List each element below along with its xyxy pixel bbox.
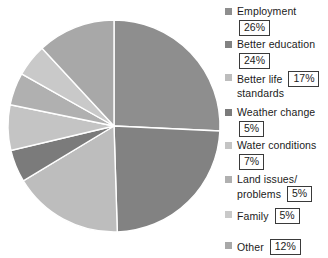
legend-item-other-texts: Other 12% xyxy=(237,239,301,255)
legend-item-better-education-texts: Better education 24% xyxy=(237,38,315,69)
legend-swatch-land-issues xyxy=(225,176,232,183)
pie-chart-svg xyxy=(0,0,230,258)
legend-label-better-life-standards: Better life xyxy=(237,73,282,86)
legend-item-family[interactable]: Family 5% xyxy=(225,208,300,224)
legend-item-better-life-standards[interactable]: Better life 17% standards xyxy=(225,71,319,100)
legend-label-weather-change: Weather change xyxy=(237,106,315,119)
legend-label-line-2: problems 5% xyxy=(237,186,312,202)
legend-label-better-life-standards-2: standards xyxy=(237,87,284,100)
legend-label-line: Better education xyxy=(237,38,315,51)
legend-label-land-issues: Land issues/ xyxy=(237,173,297,186)
legend-label-line: Other 12% xyxy=(237,239,301,255)
legend-value-water-conditions: 7% xyxy=(239,154,264,170)
legend-item-land-issues[interactable]: Land issues/ problems 5% xyxy=(225,173,312,202)
legend-swatch-family xyxy=(225,211,232,218)
legend-swatch-employment xyxy=(225,8,232,15)
legend-swatch-better-education xyxy=(225,41,232,48)
legend-swatch-weather-change xyxy=(225,109,232,116)
legend-label-family: Family xyxy=(237,210,269,223)
legend-label-line-2: standards xyxy=(237,87,319,100)
legend-label-better-education: Better education xyxy=(237,38,315,51)
pie-slice[interactable] xyxy=(114,20,220,131)
legend-label-line: Better life 17% xyxy=(237,71,319,87)
legend-label-line: Weather change xyxy=(237,106,315,119)
legend-swatch-water-conditions xyxy=(225,142,232,149)
legend-label-other: Other xyxy=(237,241,264,254)
legend-value-other: 12% xyxy=(270,239,301,255)
legend-item-land-issues-texts: Land issues/ problems 5% xyxy=(237,173,312,202)
legend-item-family-texts: Family 5% xyxy=(237,208,300,224)
legend-value-employment: 26% xyxy=(239,20,270,36)
legend-value-line: 24% xyxy=(239,53,315,69)
legend-label-line: Water conditions xyxy=(237,139,316,152)
legend-value-line: 5% xyxy=(239,121,315,137)
legend-item-water-conditions-texts: Water conditions 7% xyxy=(237,139,316,170)
legend-item-water-conditions[interactable]: Water conditions 7% xyxy=(225,139,316,170)
legend-item-weather-change-texts: Weather change 5% xyxy=(237,106,315,137)
pie-slices-group xyxy=(8,20,220,232)
legend-value-family: 5% xyxy=(275,208,300,224)
legend-item-employment-texts: Employment 26% xyxy=(237,5,296,36)
legend-value-better-education: 24% xyxy=(239,53,270,69)
legend-item-weather-change[interactable]: Weather change 5% xyxy=(225,106,315,137)
legend-item-better-life-standards-texts: Better life 17% standards xyxy=(237,71,319,100)
pie-slice[interactable] xyxy=(114,126,220,232)
legend-value-better-life-standards: 17% xyxy=(288,71,319,87)
legend-item-other[interactable]: Other 12% xyxy=(225,239,301,255)
legend-label-line: Family 5% xyxy=(237,208,300,224)
legend-swatch-other xyxy=(225,242,232,249)
legend-value-weather-change: 5% xyxy=(239,121,264,137)
chart-legend: Employment 26% Better education 24% xyxy=(225,0,328,258)
legend-label-line: Employment xyxy=(237,5,296,18)
legend-label-line: Land issues/ xyxy=(237,173,312,186)
pie-chart-figure: Employment 26% Better education 24% xyxy=(0,0,328,258)
legend-label-land-issues-2: problems xyxy=(237,188,281,201)
legend-value-land-issues: 5% xyxy=(287,186,312,202)
pie-chart-area xyxy=(0,0,230,258)
legend-swatch-better-life-standards xyxy=(225,74,232,81)
legend-value-line: 26% xyxy=(239,20,296,36)
legend-value-line: 7% xyxy=(239,154,316,170)
legend-item-employment[interactable]: Employment 26% xyxy=(225,5,296,36)
legend-label-water-conditions: Water conditions xyxy=(237,139,316,152)
legend-item-better-education[interactable]: Better education 24% xyxy=(225,38,315,69)
legend-label-employment: Employment xyxy=(237,5,296,18)
